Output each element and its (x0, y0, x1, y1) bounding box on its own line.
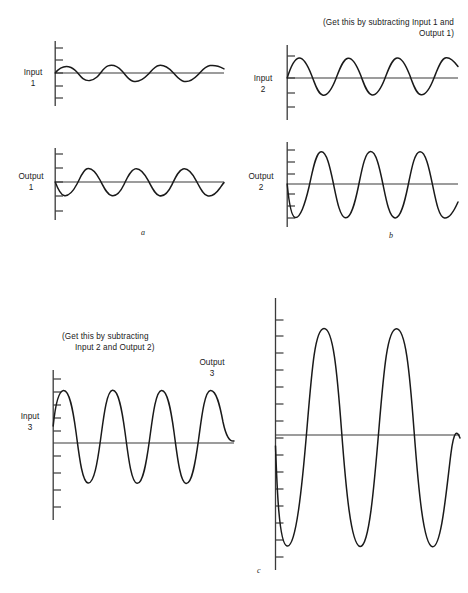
axis-label-input-2-line1: Input (254, 74, 273, 83)
waveform-output-2 (287, 152, 458, 218)
panel-c-left: (Get this by subtracting Input 2 and Out… (0, 300, 234, 593)
chart-output-1 (54, 148, 224, 220)
axis-label-output-2-line1: Output (248, 172, 273, 181)
axis-label-output-1: Output 1 (6, 172, 56, 193)
panel-c-right: c (234, 290, 468, 593)
waveform-input-3 (53, 390, 234, 483)
caption-note-c-line2: Input 2 and Output 2) (62, 343, 154, 354)
chart-input-2 (286, 45, 458, 120)
caption-note-c-line1: (Get this by subtracting (62, 332, 149, 341)
axis-label-input-1-line2: 1 (31, 79, 36, 88)
axis-label-output-1-line1: Output (18, 172, 43, 181)
axis-label-input-3-line1: Input (21, 412, 40, 421)
axis-label-input-3: Input 3 (8, 412, 52, 433)
caption-note-b-line1: (Get this by subtracting Input 1 and (323, 18, 454, 27)
panel-b: (Get this by subtracting Input 1 and Out… (234, 0, 468, 255)
chart-input-1 (54, 41, 224, 106)
axis-label-input-3-line2: 3 (28, 423, 33, 432)
caption-note-c: (Get this by subtracting Input 2 and Out… (62, 332, 232, 354)
panel-letter-b: b (389, 231, 393, 240)
panel-letter-c: c (257, 566, 261, 575)
panel-letter-a: a (141, 228, 145, 237)
axis-label-output-2: Output 2 (236, 172, 286, 193)
axis-label-output-1-line2: 1 (29, 183, 34, 192)
y-axis-ticks-input-2 (287, 56, 295, 107)
waveform-output-3 (276, 328, 461, 546)
chart-output-3 (274, 298, 460, 570)
panel-a: Input 1 Output 1 (0, 0, 234, 255)
caption-note-b: (Get this by subtracting Input 1 and Out… (246, 18, 454, 40)
axis-label-input-2: Input 2 (240, 74, 286, 95)
figure-canvas: Input 1 Output 1 (0, 0, 468, 593)
chart-output-2 (286, 142, 458, 227)
chart-input-3 (52, 370, 234, 520)
axis-label-output-3-line1: Output (199, 358, 224, 367)
caption-note-b-line2: Output 1) (419, 29, 454, 38)
axis-label-input-1-line1: Input (24, 68, 43, 77)
axis-label-input-1: Input 1 (10, 68, 56, 89)
waveform-input-2 (287, 58, 458, 96)
axis-label-output-2-line2: 2 (259, 183, 264, 192)
axis-label-input-2-line2: 2 (261, 85, 266, 94)
